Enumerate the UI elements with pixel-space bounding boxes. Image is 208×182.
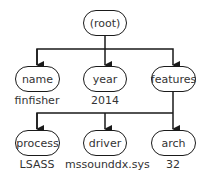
year-node: year [83, 66, 127, 92]
features-label: features [151, 73, 196, 86]
arch-label: arch [161, 137, 185, 150]
driver-label: driver [89, 137, 121, 150]
name-node: name [15, 66, 60, 92]
year-value: 2014 [65, 94, 145, 107]
process-label: process [16, 137, 58, 150]
name-label: name [22, 73, 53, 86]
root-label: (root) [90, 17, 121, 30]
features-node: features [151, 66, 196, 92]
arch-node: arch [151, 130, 196, 156]
driver-node: driver [83, 130, 127, 156]
process-node: process [15, 130, 60, 156]
root-node: (root) [83, 10, 127, 36]
year-label: year [93, 73, 118, 86]
arch-value: 32 [133, 158, 208, 171]
